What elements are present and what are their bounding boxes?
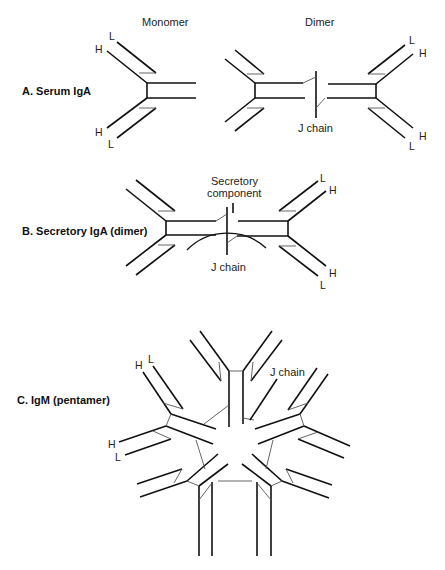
j-chain-label: J chain [211, 261, 246, 273]
heavy-chain-label: H [95, 126, 103, 138]
j-chain-label: J chain [270, 366, 305, 378]
light-chain-label: L [320, 172, 326, 184]
iga-monomer: L H H L [95, 30, 196, 150]
heavy-chain-label: H [108, 438, 116, 450]
heavy-chain-label: H [329, 267, 337, 279]
immunoglobulin-diagram: Monomer Dimer A. Serum IgA B. Secretory … [0, 0, 445, 570]
heavy-chain-label: H [329, 184, 337, 196]
heavy-chain-label: H [419, 130, 427, 142]
igm-pentamer: J chain H L H L [108, 331, 350, 556]
light-chain-label: L [148, 353, 154, 365]
light-chain-label: L [409, 140, 415, 152]
dimer-header: Dimer [305, 16, 335, 28]
monomer-header: Monomer [142, 16, 189, 28]
light-chain-label: L [108, 138, 114, 150]
j-chain-label: J chain [298, 122, 333, 134]
iga-dimer: L H H L J chain [225, 34, 427, 152]
light-chain-label: L [320, 279, 326, 291]
light-chain-label: L [409, 34, 415, 46]
section-label-b: B. Secretory IgA (dimer) [22, 225, 148, 237]
light-chain-label: L [115, 451, 121, 463]
section-label-a: A. Serum IgA [22, 85, 91, 97]
heavy-chain-label: H [135, 359, 143, 371]
section-label-c: C. IgM (pentamer) [17, 394, 110, 406]
heavy-chain-label: H [95, 43, 103, 55]
light-chain-label: L [109, 30, 115, 42]
secretory-iga: Secretory component J chain L H H L [126, 172, 337, 291]
secretory-label-line1: Secretory [211, 175, 259, 187]
heavy-chain-label: H [419, 47, 427, 59]
secretory-label-line2: component [207, 187, 261, 199]
